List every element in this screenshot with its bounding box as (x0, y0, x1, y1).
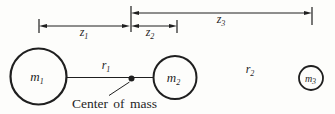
center-of-mass-leader-line (109, 82, 130, 96)
label-z1: z1 (79, 25, 89, 41)
label-r1: r1 (102, 58, 111, 74)
label-r2: r2 (246, 62, 255, 78)
physics-diagram-canvas: z3 z1 z2 r1 r2 m1 m2 m3 Center of mass (0, 0, 335, 114)
arrowhead-z3-left-icon (131, 11, 139, 15)
arrowhead-z3-right-icon (304, 11, 312, 15)
label-z2: z2 (145, 25, 155, 41)
arrowhead-z1-right-icon (122, 24, 130, 28)
label-z3: z3 (216, 12, 226, 28)
center-of-mass-caption: Center of mass (72, 96, 157, 111)
arrowhead-z2-left-icon (131, 24, 139, 28)
arrowhead-z1-left-icon (39, 24, 47, 28)
center-of-mass-dot (129, 76, 135, 82)
arrowhead-z2-right-icon (169, 24, 177, 28)
three-mass-center-of-mass-figure: z3 z1 z2 r1 r2 m1 m2 m3 Center of mass (0, 0, 335, 114)
